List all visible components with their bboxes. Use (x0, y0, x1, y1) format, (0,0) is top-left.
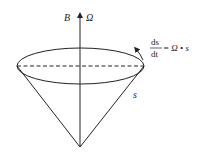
precession-arrow (136, 49, 143, 60)
equation-rhs: = Ω • s (163, 43, 189, 53)
equation-numerator: ds (151, 37, 160, 47)
vector-s-label: s (133, 89, 137, 100)
equation-denominator: dt (151, 49, 159, 59)
cone-left-side (17, 66, 80, 147)
field-label: B (64, 12, 70, 23)
omega-label: Ω (86, 12, 93, 23)
cone-right-side (80, 66, 144, 147)
precession-cone-diagram: B Ω s ds dt = Ω • s (0, 0, 207, 156)
